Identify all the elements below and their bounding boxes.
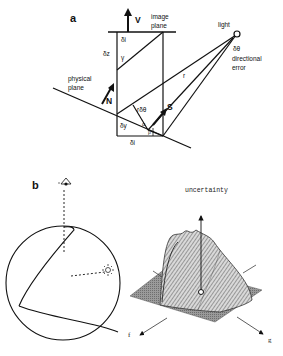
figure-canvas: a V image plane light δθ directional err…: [0, 0, 283, 356]
v-label: V: [135, 15, 141, 25]
physical-plane-line: [53, 88, 191, 148]
light-direction-dashed: [71, 272, 105, 276]
delta-i-top-label: δi: [121, 36, 126, 43]
figure: a V image plane light δθ directional err…: [0, 0, 283, 356]
physical-plane-label-1: physical: [68, 75, 92, 83]
r-delta-theta-label: rδθ: [137, 106, 147, 113]
delta-i-bottom-label: δi: [130, 139, 135, 146]
directional-label-1: directional: [232, 55, 262, 62]
delta-theta-label: δθ: [233, 45, 241, 52]
sun-icon: [102, 264, 114, 276]
eye-icon: [58, 178, 71, 186]
ray-lower: [163, 35, 236, 136]
n-label: N: [106, 96, 112, 106]
uncertainty-surface: [160, 230, 252, 312]
great-circle-arc-2: [19, 306, 118, 332]
delta-z-label: δz: [103, 50, 110, 57]
physical-plane-label-2: plane: [68, 84, 84, 92]
directional-label-2: error: [232, 64, 247, 71]
panel-a-label: a: [70, 12, 77, 24]
light-label: light: [218, 21, 230, 29]
ray-upper: [117, 35, 236, 114]
image-plane-label-1: image: [151, 13, 169, 21]
image-plane-label-2: plane: [151, 22, 167, 30]
beta-label: β: [148, 129, 151, 135]
delta-y-label: δy: [120, 122, 128, 130]
panel-b-label: b: [32, 179, 39, 191]
gamma-label: γ: [121, 54, 125, 62]
f-axis-label: f: [128, 331, 131, 339]
f-axis: [140, 318, 167, 335]
panel-b-surface: uncertainty f g: [128, 187, 272, 344]
light-source-icon: [234, 31, 240, 37]
v-arrowhead-icon: [124, 8, 132, 16]
g-axis: [237, 317, 263, 334]
r-label: r: [183, 72, 186, 79]
s-label: S: [167, 102, 173, 112]
uncertainty-label: uncertainty: [185, 187, 228, 194]
g-axis-label: g: [268, 336, 272, 344]
origin-marker: [199, 290, 204, 295]
panel-b-sphere: b: [6, 178, 120, 340]
